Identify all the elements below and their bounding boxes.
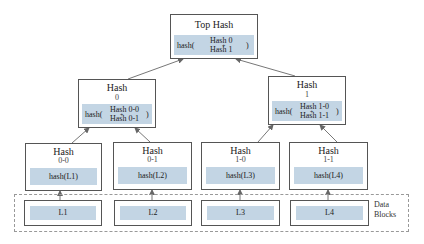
data-block-l3: L3 [201,200,280,226]
leaf-index: 0-0 [26,156,101,165]
hash-fn-label: hash( [177,41,194,50]
data-blocks-label-line1: Data [374,200,396,210]
hash-0-node: Hash 0 hash( Hash 0-0 + Hash 0-1 ) [78,79,156,128]
data-block-label: L1 [30,206,96,220]
leaf-hash-value: hash(L2) [118,167,187,184]
hash-fn-label: hash( [275,107,292,116]
close-paren: ) [146,110,149,119]
data-block-label: L4 [296,206,363,220]
data-block-l1: L1 [24,200,102,226]
leaf-index: 1-0 [202,155,279,164]
leaf-hash-value: hash(L3) [206,167,275,184]
input-hash-1-0: Hash 1-0 [300,103,329,111]
data-block-label: L2 [120,206,186,220]
hash-1-title: Hash [269,79,345,90]
data-blocks-label: Data Blocks [374,200,396,220]
top-hash-title: Top Hash [171,19,257,30]
hash-1-function: hash( Hash 1-0 + Hash 1-1 ) [272,101,342,121]
hash-0-index: 0 [79,93,155,102]
hash-1-node: Hash 1 hash( Hash 1-0 + Hash 1-1 ) [268,76,346,125]
hash-0-1-node: Hash 0-1 hash(L2) [113,142,192,190]
leaf-index: 0-1 [114,155,191,164]
hash-1-0-node: Hash 1-0 hash(L3) [201,142,280,190]
data-block-l2: L2 [114,200,192,226]
leaf-hash-value: hash(L1) [30,168,97,185]
input-hash-1-1: Hash 1-1 [300,112,329,120]
input-hash-0-1: Hash 0-1 [110,115,139,123]
leaf-index: 1-1 [290,155,367,164]
top-hash-node: Top Hash hash( Hash 0 + Hash 1 ) [170,14,258,59]
hash-fn-label: hash( [85,110,102,119]
hash-1-index: 1 [269,90,345,99]
close-paren: ) [336,107,339,116]
close-paren: ) [246,41,249,50]
hash-0-title: Hash [79,82,155,93]
input-hash-1: Hash 1 [210,46,232,54]
hash-1-1-node: Hash 1-1 hash(L4) [289,142,368,190]
hash-0-0-node: Hash 0-0 hash(L1) [25,143,102,191]
top-hash-function: hash( Hash 0 + Hash 1 ) [174,35,254,55]
hash-0-function: hash( Hash 0-0 + Hash 0-1 ) [82,104,152,124]
data-block-l4: L4 [290,200,369,226]
data-blocks-label-line2: Blocks [374,210,396,220]
leaf-hash-value: hash(L4) [294,167,363,184]
data-block-label: L3 [207,206,274,220]
input-hash-0-0: Hash 0-0 [110,106,139,114]
